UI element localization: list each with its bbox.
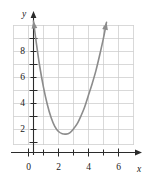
y-axis-label: y: [21, 9, 27, 19]
parabola-graph: 0 2 4 6 x 2 4 6 8 y: [0, 0, 149, 177]
y-tick-label-6: 6: [20, 72, 25, 82]
x-tick-label-6: 6: [116, 162, 121, 172]
x-tick-label-4: 4: [86, 162, 91, 172]
y-tick-label-8: 8: [20, 46, 25, 56]
y-tick-label-4: 4: [20, 98, 25, 108]
figure-background: [0, 0, 149, 177]
x-tick-label-2: 2: [56, 162, 61, 172]
y-tick-label-2: 2: [20, 124, 25, 134]
graph-figure: 0 2 4 6 x 2 4 6 8 y: [0, 0, 149, 177]
x-tick-label-0: 0: [26, 162, 31, 172]
x-axis-label: x: [136, 164, 142, 174]
